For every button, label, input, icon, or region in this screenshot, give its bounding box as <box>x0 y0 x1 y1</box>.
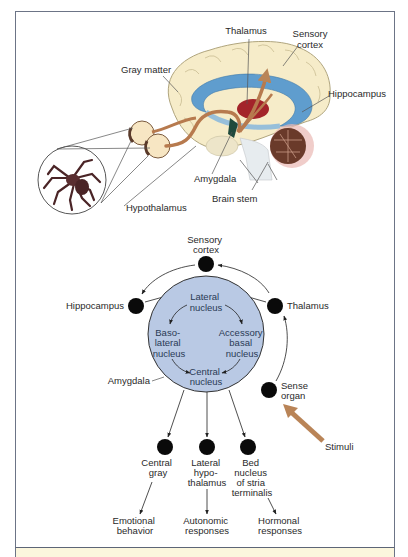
arrow-central-gray-to-emotional <box>140 482 152 514</box>
node-central-gray <box>157 439 173 455</box>
label-bed-nucleus: Bed nucleus of stria terminalis <box>232 457 273 498</box>
label-basolateral-nucleus: Baso- lateral nucleus <box>153 327 186 359</box>
brain-stem <box>240 138 272 180</box>
label-sensory-cortex-2: cortex <box>297 39 323 50</box>
label-hypothalamus: Hypothalamus <box>126 202 187 213</box>
arrow-central-to-central-gray <box>168 390 184 437</box>
node-lateral-hypothalamus <box>199 439 215 455</box>
label-sense-organ: Sense organ <box>281 380 311 401</box>
arrow-sense-organ-to-thalamus <box>276 316 287 381</box>
figure-canvas: Thalamus Sensory cortex Gray matter Hipp… <box>0 0 408 557</box>
stimuli-arrow <box>291 412 323 441</box>
node-bed-nucleus <box>240 439 256 455</box>
label-autonomic-responses: Autonomic responses <box>183 515 231 536</box>
label-central-gray: Central gray <box>141 457 174 478</box>
label-amygdala: Amygdala <box>108 375 151 386</box>
label-gray-matter: Gray matter <box>121 64 171 75</box>
node-thalamus <box>267 298 283 314</box>
label-central-nucleus: Central nucleus <box>189 366 222 387</box>
label-sensory-cortex-node: Sensory cortex <box>187 234 225 255</box>
label-amygdala-brain: Amygdala <box>194 173 237 184</box>
label-sensory-cortex-1: Sensory <box>293 28 328 39</box>
label-emotional-behavior: Emotional behavior <box>113 515 158 536</box>
eyeballs <box>130 121 170 158</box>
node-hippocampus <box>128 298 144 314</box>
label-hippocampus-brain: Hippocampus <box>328 88 386 99</box>
label-hippocampus-node: Hippocampus <box>66 300 124 311</box>
label-thalamus-node: Thalamus <box>287 300 329 311</box>
label-thalamus: Thalamus <box>225 25 267 36</box>
node-sense-organ <box>261 382 277 398</box>
label-lateral-hypothalamus: Lateral hypo- thalamus <box>188 457 227 488</box>
label-hormonal-responses: Hormonal responses <box>258 515 302 536</box>
label-lateral-nucleus: Lateral nucleus <box>190 291 223 313</box>
brain-illustration <box>38 41 330 214</box>
arrow-central-to-bed-nucleus <box>229 390 245 437</box>
node-sensory-cortex <box>198 256 214 272</box>
arrow-bed-nucleus-to-hormonal <box>268 498 276 514</box>
label-stimuli: Stimuli <box>325 441 354 452</box>
label-brain-stem: Brain stem <box>212 193 257 204</box>
